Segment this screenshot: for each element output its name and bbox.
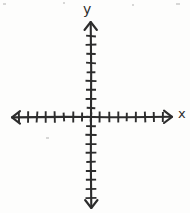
scan-speck xyxy=(46,137,49,139)
scan-speck xyxy=(132,4,134,6)
coordinate-plane-figure: y x xyxy=(0,0,190,213)
scan-speck xyxy=(3,3,6,5)
x-axis-label: x xyxy=(178,107,186,120)
scan-speck xyxy=(63,2,65,4)
y-axis-label: y xyxy=(83,2,91,16)
scan-speck xyxy=(176,3,180,5)
axes-drawing xyxy=(0,0,190,213)
